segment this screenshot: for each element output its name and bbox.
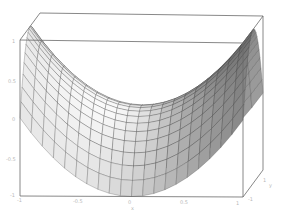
z-tick-label: 1 (12, 39, 15, 44)
surface-plot (0, 0, 282, 219)
z-tick-label: -0.5 (6, 157, 16, 162)
y-tick-label: 1 (263, 178, 266, 183)
x-tick-label: -0.5 (73, 199, 83, 204)
x-tick-label: 0.5 (180, 200, 188, 205)
z-tick-label: -1 (10, 193, 15, 198)
x-tick-label: -1 (17, 198, 22, 203)
z-tick-label: 0.5 (8, 79, 16, 84)
y-tick-label: -1 (248, 197, 253, 202)
z-tick-label: 0 (12, 117, 15, 122)
saddle-surface (20, 26, 263, 197)
x-tick-label: 1 (236, 201, 239, 206)
x-axis-label: x (131, 206, 134, 211)
y-axis-label: y (269, 183, 272, 188)
